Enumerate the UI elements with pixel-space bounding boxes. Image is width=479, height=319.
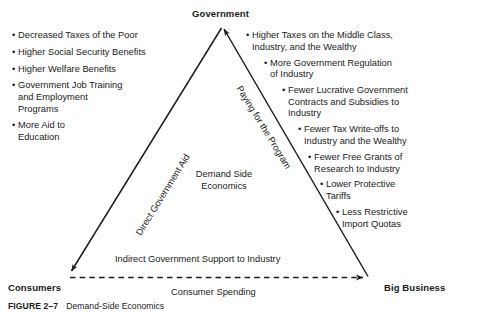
list-item-label: Less RestrictiveImport Quotas [342, 207, 408, 230]
list-item-label: Lower ProtectiveTariffs [326, 179, 395, 202]
vertex-label-government: Government [192, 8, 249, 19]
list-item: •Higher Welfare Benefits [12, 64, 146, 76]
list-item-label: Higher Welfare Benefits [18, 64, 116, 76]
left-benefits-list: •Decreased Taxes of the Poor•Higher Soci… [12, 30, 146, 149]
list-item: •Lower ProtectiveTariffs [320, 179, 408, 202]
list-item-label: Higher Social Security Benefits [18, 47, 146, 59]
list-item: •Fewer Tax Write-offs toIndustry and the… [298, 124, 408, 147]
list-item: •More Government Regulationof Industry [264, 58, 408, 81]
list-item-label: Higher Taxes on the Middle Class,Industr… [252, 30, 393, 53]
vertex-label-consumers: Consumers [8, 282, 61, 293]
list-item: •Less RestrictiveImport Quotas [336, 207, 408, 230]
list-item-label: Decreased Taxes of the Poor [18, 30, 138, 42]
list-item: •Higher Social Security Benefits [12, 47, 146, 59]
center-label-demand-side-economics: Demand SideEconomics [169, 168, 279, 192]
figure-title: Demand-Side Economics [66, 301, 164, 311]
list-item: •Fewer Lucrative GovernmentContracts and… [282, 85, 408, 120]
edge-label-indirect-government-support: Indirect Government Support to Industry [115, 254, 280, 264]
list-item: •Decreased Taxes of the Poor [12, 30, 146, 42]
list-item-label: Fewer Free Grants ofResearch to Industry [314, 152, 402, 175]
figure-number: FIGURE 2–7 [8, 301, 58, 311]
list-item: •Government Job Trainingand EmploymentPr… [12, 80, 146, 115]
list-item-label: Fewer Tax Write-offs toIndustry and the … [304, 124, 407, 147]
list-item: •Higher Taxes on the Middle Class,Indust… [246, 30, 408, 53]
list-item-label: Government Job Trainingand EmploymentPro… [18, 80, 122, 115]
figure-caption: FIGURE 2–7 Demand-Side Economics [8, 301, 164, 311]
list-item-label: Fewer Lucrative GovernmentContracts and … [288, 85, 408, 120]
list-item: •Fewer Free Grants ofResearch to Industr… [308, 152, 408, 175]
list-item-label: More Government Regulationof Industry [270, 58, 392, 81]
vertex-label-big-business: Big Business [384, 282, 445, 293]
list-item-label: More Aid toEducation [18, 120, 65, 143]
list-item: •More Aid toEducation [12, 120, 146, 143]
edge-label-consumer-spending: Consumer Spending [171, 287, 256, 297]
